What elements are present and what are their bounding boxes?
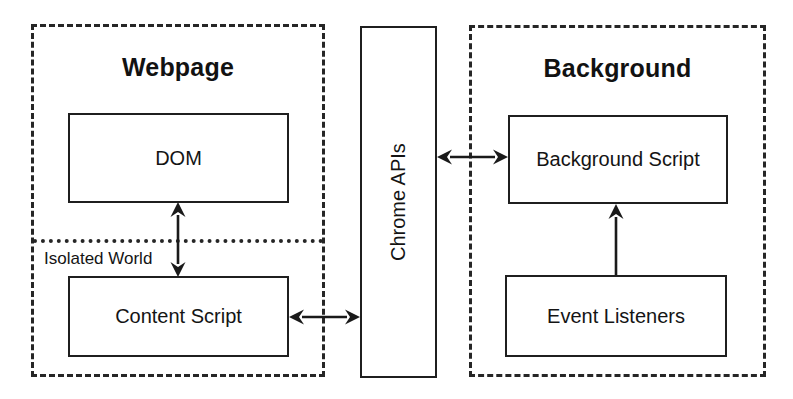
node-content-script-label: Content Script [115, 305, 242, 328]
node-chrome-apis-label: Chrome APIs [387, 143, 410, 261]
node-background-script[interactable]: Background Script [508, 115, 728, 204]
node-dom-label: DOM [155, 147, 202, 170]
node-dom[interactable]: DOM [68, 113, 289, 203]
node-event-listeners[interactable]: Event Listeners [505, 275, 727, 357]
connector-dom-content-script [158, 202, 198, 277]
connector-content-script-chrome-apis [289, 297, 360, 337]
region-background-title: Background [472, 54, 763, 83]
region-webpage-title: Webpage [34, 53, 322, 82]
connector-event-listeners-background-script [596, 204, 636, 275]
node-background-script-label: Background Script [536, 148, 699, 171]
connector-chrome-apis-background-script [437, 137, 508, 177]
diagram-canvas: Webpage Background Isolated World DOM Co… [0, 0, 793, 399]
node-event-listeners-label: Event Listeners [547, 305, 685, 328]
node-content-script[interactable]: Content Script [68, 276, 289, 357]
node-chrome-apis[interactable]: Chrome APIs [360, 26, 437, 378]
isolated-world-label: Isolated World [44, 249, 152, 269]
